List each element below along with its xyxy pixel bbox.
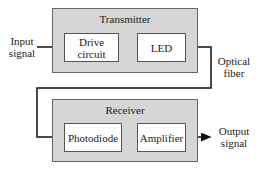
output-signal-label: Output signal [212, 125, 256, 149]
photodiode-block: Photodiode [64, 123, 122, 152]
input-signal-label: Input signal [6, 35, 38, 59]
optical-fiber-label: Optical fiber [212, 55, 256, 79]
transmitter-title: Transmitter [53, 13, 197, 25]
drive-circuit-block: Drive circuit [64, 33, 119, 62]
led-block: LED [137, 33, 186, 62]
amplifier-block: Amplifier [137, 123, 186, 152]
receiver-title: Receiver [53, 104, 197, 116]
